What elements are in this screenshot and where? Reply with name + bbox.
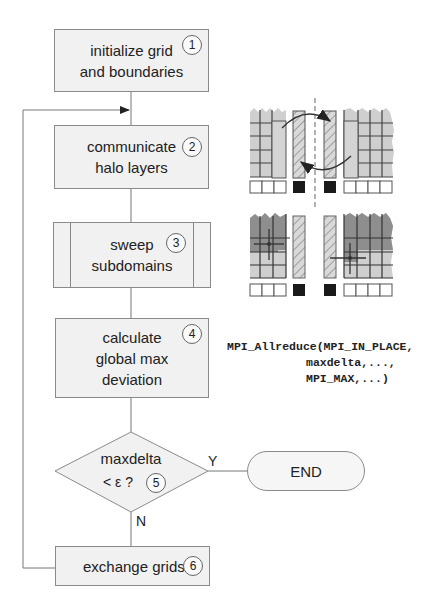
end-terminal: END bbox=[247, 451, 365, 491]
mpi-code-line3: MPI_MAX,...) bbox=[306, 371, 389, 387]
end-label: END bbox=[290, 463, 322, 480]
step-sweep-label: sweep subdomains bbox=[92, 234, 173, 276]
branch-yes-label: Y bbox=[208, 453, 217, 469]
branch-no-label: N bbox=[136, 513, 146, 529]
subroutine-bar-left bbox=[70, 223, 71, 287]
step-number-1: 1 bbox=[182, 35, 202, 55]
step-calculate-label: calculate global max deviation bbox=[96, 327, 169, 390]
step-number-5: 5 bbox=[146, 473, 166, 493]
decision-label-line1: maxdelta bbox=[95, 450, 167, 467]
step-exchange-label: exchange grids bbox=[83, 556, 185, 577]
decision-diamond bbox=[55, 432, 208, 512]
step-number-6: 6 bbox=[183, 556, 203, 576]
step-communicate-halo: communicate halo layers 2 bbox=[54, 125, 209, 189]
step-sweep-subdomains: sweep subdomains 3 bbox=[53, 222, 211, 288]
mpi-code-line1: MPI_Allreduce(MPI_IN_PLACE, bbox=[227, 339, 413, 355]
sweep-illustration bbox=[250, 213, 393, 296]
step-exchange-grids: exchange grids 6 bbox=[55, 546, 210, 586]
step-communicate-halo-label: communicate halo layers bbox=[87, 136, 176, 178]
halo-exchange-illustration bbox=[250, 98, 394, 208]
step-number-2: 2 bbox=[182, 137, 202, 157]
subroutine-bar-right bbox=[193, 223, 194, 287]
step-calculate-max-deviation: calculate global max deviation 4 bbox=[55, 318, 209, 398]
step-number-3: 3 bbox=[166, 233, 186, 253]
mpi-code-line2: maxdelta,..., bbox=[306, 355, 396, 371]
decision-label-line2: < ε ? bbox=[103, 474, 133, 490]
step-initialize-label: initialize grid and boundaries bbox=[80, 40, 183, 82]
step-number-4: 4 bbox=[182, 324, 202, 344]
step-initialize: initialize grid and boundaries 1 bbox=[54, 29, 209, 92]
